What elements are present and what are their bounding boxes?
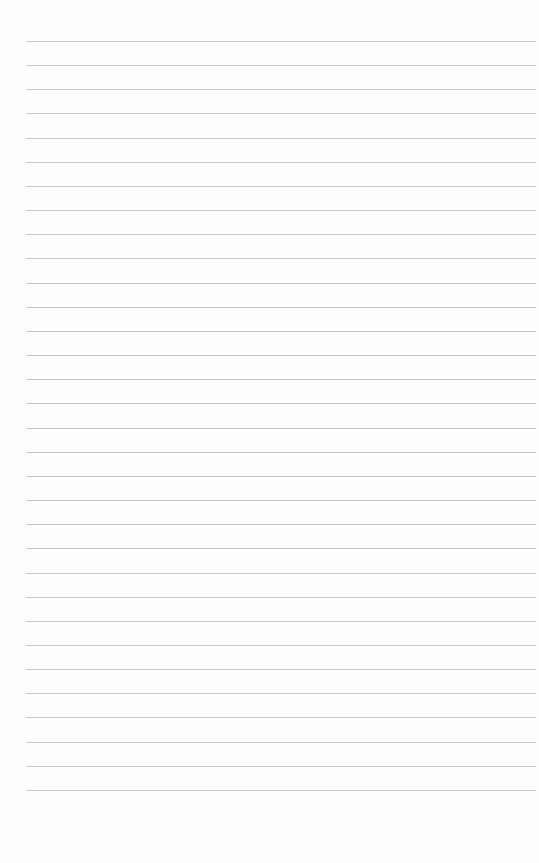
ruled-line <box>26 234 536 235</box>
ruled-line <box>26 428 536 429</box>
ruled-line <box>26 717 536 718</box>
ruled-line <box>26 790 536 791</box>
ruled-line <box>26 403 536 404</box>
ruled-line <box>26 41 536 42</box>
ruled-line <box>26 452 536 453</box>
ruled-line <box>26 742 536 743</box>
ruled-line <box>26 766 536 767</box>
ruled-line <box>26 186 536 187</box>
ruled-line <box>26 621 536 622</box>
lined-paper-page <box>0 0 539 863</box>
ruled-line <box>26 258 536 259</box>
ruled-line <box>26 597 536 598</box>
ruled-line <box>26 283 536 284</box>
ruled-line <box>26 693 536 694</box>
ruled-line <box>26 500 536 501</box>
ruled-line <box>26 548 536 549</box>
ruled-line <box>26 113 536 114</box>
ruled-line <box>26 573 536 574</box>
ruled-line <box>26 210 536 211</box>
ruled-line <box>26 138 536 139</box>
ruled-line <box>26 669 536 670</box>
ruled-line <box>26 89 536 90</box>
ruled-line <box>26 645 536 646</box>
ruled-line <box>26 65 536 66</box>
ruled-line <box>26 162 536 163</box>
ruled-line <box>26 331 536 332</box>
ruled-line <box>26 307 536 308</box>
ruled-line <box>26 476 536 477</box>
ruled-line <box>26 355 536 356</box>
ruled-line <box>26 524 536 525</box>
ruled-line <box>26 379 536 380</box>
